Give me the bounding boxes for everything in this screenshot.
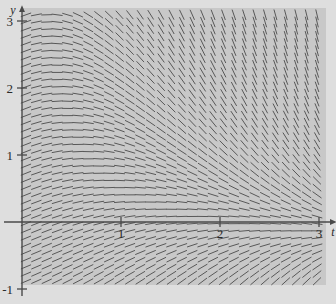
field-segment [41,29,52,30]
field-segment [93,159,104,160]
field-segment [124,187,135,188]
field-segment [62,94,73,95]
y-axis-label: y [9,3,16,17]
slope-field-figure: 321-1123yt [0,0,336,304]
field-segment [52,51,63,52]
field-segment [270,231,281,232]
field-segment [260,223,271,224]
slope-field-plot: 321-1123yt [0,0,336,304]
y-tick-label-1: 1 [7,148,14,163]
field-segment [93,180,104,181]
field-segment [114,180,125,181]
field-segment [145,209,156,210]
field-segment [260,231,271,232]
field-segment [156,202,167,203]
field-segment [52,94,63,95]
t-tick-label-1: 1 [118,226,125,241]
field-segment [83,144,94,145]
y-tick-label-2: 2 [7,81,14,96]
t-tick-label-3: 3 [316,226,323,241]
field-segment [72,123,83,124]
field-segment [62,130,73,131]
field-segment [208,223,219,224]
field-segment [72,151,83,152]
field-segment [166,216,177,217]
field-segment [124,202,135,203]
t-tick-label-2: 2 [217,226,224,241]
y-tick-label-neg1: -1 [2,282,13,297]
